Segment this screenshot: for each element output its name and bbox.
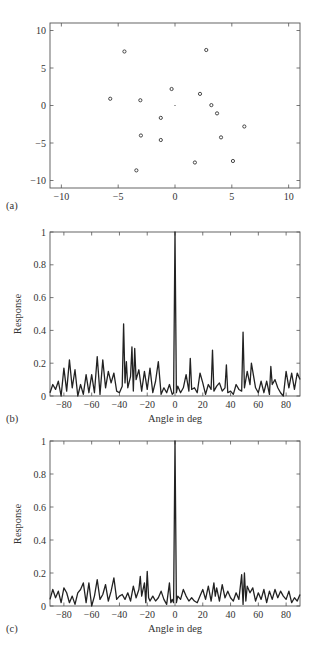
y-tick-label: 0.8 [34, 469, 47, 480]
panel-label: (a) [6, 200, 18, 212]
x-tick-label: 80 [281, 609, 291, 620]
axis-ticks: −10−50510−10−50510 [30, 23, 300, 202]
x-tick-label: −60 [84, 399, 100, 410]
y-tick-label: 0.4 [34, 325, 47, 336]
x-tick-label: −10 [54, 191, 70, 202]
y-tick-label: −10 [30, 175, 46, 186]
y-tick-label: 0.6 [34, 502, 47, 513]
element-marker [135, 169, 138, 172]
element-marker [205, 48, 208, 51]
element-marker [210, 104, 213, 107]
y-tick-label: 0.2 [34, 358, 47, 369]
y-tick-label: 0.6 [34, 292, 47, 303]
data-points [109, 48, 246, 172]
y-tick-label: 0 [41, 100, 46, 111]
x-tick-label: −40 [112, 399, 128, 410]
y-tick-label: 0.4 [34, 535, 47, 546]
scatter-panel-a: −10−50510−10−50510 (a) [6, 23, 300, 212]
y-tick-label: 0.2 [34, 568, 47, 579]
element-marker [193, 161, 196, 164]
x-tick-label: 40 [226, 609, 236, 620]
element-marker [139, 99, 142, 102]
response-panel-b: −80−60−40−2002040608000.20.40.60.81 Resp… [6, 227, 300, 426]
x-tick-label: 5 [229, 191, 234, 202]
element-marker [215, 112, 218, 115]
x-tick-label: 0 [173, 191, 178, 202]
y-tick-label: −5 [35, 138, 46, 149]
x-tick-label: −80 [56, 399, 72, 410]
y-tick-label: 0.8 [34, 259, 47, 270]
x-tick-label: 60 [253, 399, 263, 410]
response-curve [50, 441, 300, 606]
x-tick-label: 60 [253, 609, 263, 620]
x-tick-label: 20 [198, 399, 208, 410]
x-tick-label: −20 [139, 609, 155, 620]
origin-marker [174, 105, 175, 106]
x-tick-label: −40 [112, 609, 128, 620]
y-axis-label: Response [12, 504, 23, 545]
element-marker [123, 50, 126, 53]
response-panel-c: −80−60−40−2002040608000.20.40.60.81 Resp… [6, 436, 300, 636]
element-marker [159, 138, 162, 141]
element-marker [219, 136, 222, 139]
x-tick-label: 20 [198, 609, 208, 620]
y-tick-label: 1 [41, 227, 46, 238]
element-marker [231, 159, 234, 162]
x-tick-label: −80 [56, 609, 72, 620]
x-tick-label: 40 [226, 399, 236, 410]
figure: −10−50510−10−50510 (a) −80−60−40−2002040… [0, 0, 317, 652]
element-marker [159, 116, 162, 119]
panel-label: (b) [6, 413, 19, 425]
y-axis-label: Response [12, 294, 23, 335]
x-tick-label: 10 [284, 191, 294, 202]
panel-label: (c) [6, 623, 18, 635]
x-tick-label: −60 [84, 609, 100, 620]
element-marker [170, 87, 173, 90]
x-axis-label: Angle in deg [148, 623, 203, 634]
y-tick-label: 0 [41, 601, 46, 612]
x-tick-label: −5 [113, 191, 124, 202]
element-marker [139, 134, 142, 137]
y-tick-label: 1 [41, 436, 46, 447]
element-marker [243, 125, 246, 128]
x-tick-label: 80 [281, 399, 291, 410]
axis-ticks: −80−60−40−2002040608000.20.40.60.81 [34, 436, 301, 621]
element-marker [109, 97, 112, 100]
x-tick-label: 0 [173, 609, 178, 620]
y-tick-label: 10 [36, 25, 46, 36]
response-curve [50, 232, 300, 396]
x-axis-label: Angle in deg [148, 413, 203, 424]
x-tick-label: −20 [139, 399, 155, 410]
y-tick-label: 0 [41, 391, 46, 402]
element-marker [198, 92, 201, 95]
x-tick-label: 0 [173, 399, 178, 410]
y-tick-label: 5 [41, 63, 46, 74]
